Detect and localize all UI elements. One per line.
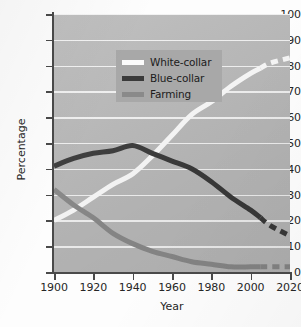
x-tick-mark	[251, 274, 253, 280]
x-tick-mark	[290, 274, 292, 280]
y-axis-title: Percentage	[15, 105, 28, 195]
legend-swatch-icon	[122, 60, 144, 65]
x-tick-mark	[172, 274, 174, 280]
x-axis-line	[52, 272, 292, 274]
y-axis-line	[52, 12, 54, 274]
series-line-blue-collar	[54, 146, 261, 218]
legend-entry: Blue-collar	[122, 70, 204, 86]
x-axis-title: Year	[54, 300, 290, 313]
series-line-blue-collar	[261, 218, 291, 236]
plot-area: White-collarBlue-collarFarming	[54, 14, 290, 272]
x-tick-mark	[211, 274, 213, 280]
x-tick-mark	[93, 274, 95, 280]
series-line-white-collar	[261, 58, 291, 68]
legend-swatch-icon	[122, 92, 144, 97]
legend-label: Blue-collar	[150, 72, 204, 84]
x-tick-mark	[54, 274, 56, 280]
legend-entry: White-collar	[122, 54, 211, 70]
legend-label: White-collar	[150, 56, 211, 68]
legend-entry: Farming	[122, 86, 191, 102]
x-tick-mark	[133, 274, 135, 280]
chart-figure: Percentage 0102030405060708090100 190019…	[0, 0, 301, 327]
legend-label: Farming	[150, 88, 191, 100]
x-tick-label: 2020	[267, 281, 301, 294]
legend-swatch-icon	[122, 76, 144, 81]
chart-legend: White-collarBlue-collarFarming	[116, 50, 222, 102]
